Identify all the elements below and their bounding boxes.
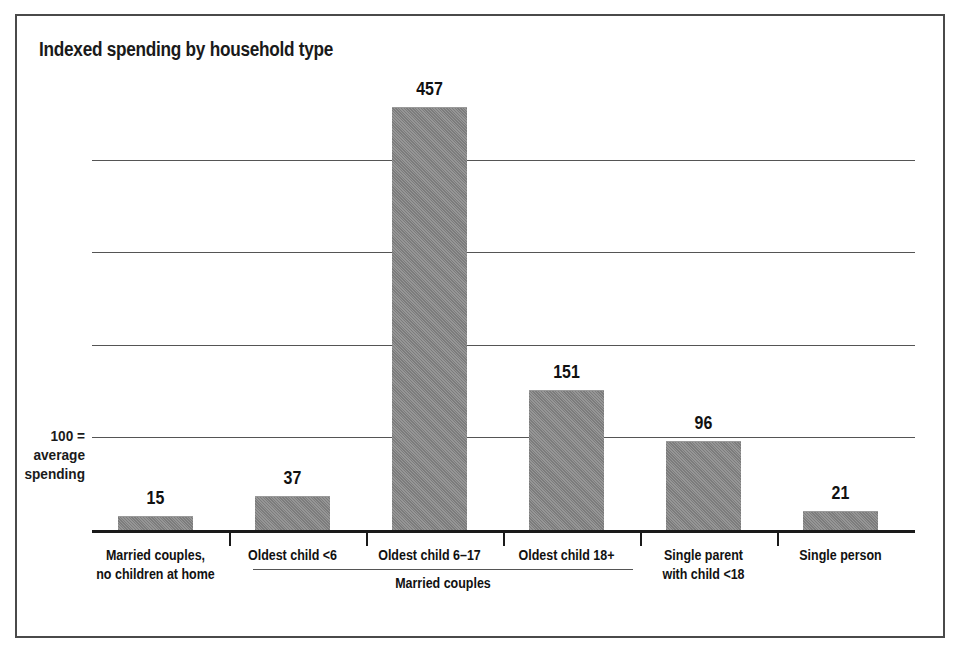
bar-oldest-child-6-17 [392,107,467,531]
category-label-line: Oldest child <6 [232,546,353,565]
group-bracket-line [253,569,633,570]
y-axis-note-line-2: average [15,445,85,464]
category-label-oldest-child-6-17: Oldest child 6–17 [369,546,490,565]
bar-value-single-parent: 96 [672,412,735,434]
gridline-100 [92,437,915,438]
axis-tick-4 [640,533,642,546]
plot-area: 100 = average spending 15 37 457 151 96 … [17,16,945,638]
category-label-single-parent: Single parent with child <18 [643,546,764,584]
category-label-line: Oldest child 18+ [506,546,627,565]
category-label-line: Single parent [643,546,764,565]
y-axis-reference-note: 100 = average spending [15,426,85,483]
category-label-line: Single person [780,546,901,565]
category-label-oldest-child-under-6: Oldest child <6 [232,546,353,565]
category-label-oldest-child-18-plus: Oldest child 18+ [506,546,627,565]
category-label-married-no-children: Married couples, no children at home [95,546,216,584]
bar-value-oldest-child-18-plus: 151 [535,361,598,383]
gridline-200 [92,345,915,346]
axis-tick-2 [366,533,368,546]
category-label-line: with child <18 [643,565,764,584]
bar-single-parent-child-under-18 [666,441,741,531]
bar-married-no-children [118,516,193,531]
category-label-line: no children at home [95,565,216,584]
bar-value-single-person: 21 [809,482,872,504]
gridline-400 [92,160,915,161]
category-label-single-person: Single person [780,546,901,565]
group-bracket-label: Married couples [280,575,607,591]
category-label-line: Oldest child 6–17 [369,546,490,565]
y-axis-note-line-1: 100 = [15,426,85,445]
bar-oldest-child-18-plus [529,390,604,531]
category-label-line: Married couples, [95,546,216,565]
bar-single-person [803,511,878,531]
axis-tick-5 [777,533,779,546]
gridline-300 [92,252,915,253]
bar-oldest-child-under-6 [255,496,330,531]
bar-value-married-no-children: 15 [124,487,187,509]
axis-tick-1 [229,533,231,546]
axis-tick-3 [503,533,505,546]
bar-value-oldest-child-under-6: 37 [261,467,324,489]
chart-figure: Indexed spending by household type 100 =… [15,14,945,638]
y-axis-note-line-3: spending [15,464,85,483]
bar-value-oldest-child-6-17: 457 [398,78,461,100]
